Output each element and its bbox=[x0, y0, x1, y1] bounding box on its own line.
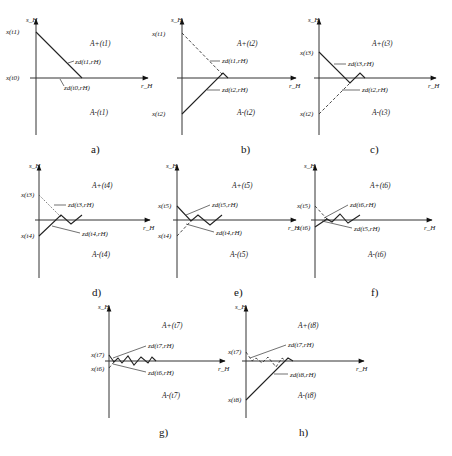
y-tick-label: x(t3) bbox=[20, 191, 35, 199]
panel-caption: b) bbox=[241, 143, 251, 156]
previous-switching-curve bbox=[182, 33, 222, 74]
y-tick-label: x(t6) bbox=[90, 365, 105, 373]
y-tick-label: x(t5) bbox=[296, 202, 311, 210]
y-tick-label: x(t0) bbox=[5, 74, 20, 82]
curve-label: zd(t3,rH) bbox=[347, 60, 375, 68]
y-axis-label: s_H bbox=[98, 303, 110, 311]
panel-caption: g) bbox=[159, 426, 169, 439]
panel-g: s_H r_H x(t7) x(t6) zd(t7,rH) zd(t6,rH) … bbox=[90, 303, 230, 439]
y-axis-label: s_H bbox=[26, 16, 38, 24]
y-tick-label: x(t6) bbox=[296, 224, 311, 232]
y-tick-label: x(t2) bbox=[151, 110, 166, 118]
curve-label: zd(t2,rH) bbox=[361, 86, 389, 94]
panel-d: s_H r_H x(t3) x(t4) zd(t3,rH) zd(t4,rH) … bbox=[20, 162, 155, 299]
panel-caption: d) bbox=[92, 286, 102, 299]
curve-label: zd(t7,rH) bbox=[287, 341, 315, 349]
curve-label: zd(t8,rH) bbox=[289, 371, 317, 379]
y-axis-label: s_H bbox=[29, 162, 41, 170]
curve-label: zd(t2,rH) bbox=[221, 86, 249, 94]
panel-e: s_H r_H x(t5) x(t4) zd(t5,rH) zd(t4,rH) … bbox=[157, 162, 300, 299]
curve-label: zd(t4,rH) bbox=[81, 230, 109, 238]
panel-caption: e) bbox=[234, 286, 243, 299]
region-upper: A+(t3) bbox=[371, 39, 393, 48]
y-tick-label: x(t1) bbox=[5, 28, 20, 36]
x-axis-label: r_H bbox=[289, 82, 301, 90]
leader-line bbox=[250, 345, 286, 358]
region-lower: A-(t7) bbox=[161, 391, 180, 400]
previous-switching-curve bbox=[177, 221, 191, 236]
panel-caption: c) bbox=[370, 143, 379, 156]
x-axis-label: r_H bbox=[356, 365, 368, 373]
x-axis-label: r_H bbox=[141, 82, 153, 90]
region-lower: A-(t4) bbox=[91, 250, 110, 259]
phase-plane-figure: s_H r_H x(t1) x(t0) zd(t1,rH) zd(t0,rH) … bbox=[0, 0, 452, 456]
y-axis-label: s_H bbox=[166, 162, 178, 170]
leader-line bbox=[186, 205, 210, 215]
panel-a: s_H r_H x(t1) x(t0) zd(t1,rH) zd(t0,rH) … bbox=[5, 16, 153, 156]
y-tick-label: x(t7) bbox=[227, 348, 242, 356]
previous-switching-curve bbox=[319, 83, 350, 114]
curve-label: zd(t5,rH) bbox=[353, 225, 381, 233]
leader-line bbox=[68, 61, 74, 63]
region-upper: A+(t6) bbox=[369, 181, 391, 190]
y-tick-label: x(t3) bbox=[299, 49, 314, 57]
region-upper: A+(t5) bbox=[231, 181, 253, 190]
region-upper: A+(t2) bbox=[236, 39, 258, 48]
curve-label: zd(t1,rH) bbox=[221, 57, 249, 65]
y-axis-label: s_H bbox=[235, 303, 247, 311]
panel-f: s_H r_H x(t5) x(t6) zd(t6,rH) zd(t5,rH) … bbox=[296, 162, 436, 299]
region-lower: A-(t3) bbox=[371, 108, 390, 117]
curve-label: zd(t5,rH) bbox=[211, 201, 239, 209]
y-tick-label: x(t8) bbox=[227, 396, 242, 404]
switching-curve bbox=[109, 355, 156, 365]
panel-caption: f) bbox=[371, 286, 379, 299]
leader-line bbox=[324, 205, 348, 218]
switching-curve bbox=[36, 32, 82, 78]
region-lower: A-(t6) bbox=[367, 250, 386, 259]
y-axis-label: s_H bbox=[171, 16, 183, 24]
y-tick-label: x(t5) bbox=[157, 202, 172, 210]
panel-caption: a) bbox=[91, 143, 100, 156]
panel-b: s_H r_H x(t1) x(t2) zd(t1,rH) zd(t2,rH) … bbox=[151, 16, 301, 156]
leader-line bbox=[113, 364, 146, 372]
curve-label: zd(t6,rH) bbox=[349, 201, 377, 209]
curve-label: zd(t1,rH) bbox=[74, 58, 102, 66]
region-upper: A+(t8) bbox=[297, 321, 319, 330]
region-lower: A-(t2) bbox=[236, 108, 255, 117]
region-lower: A-(t5) bbox=[229, 250, 248, 259]
y-tick-label: x(t4) bbox=[157, 232, 172, 240]
x-axis-label: r_H bbox=[424, 224, 436, 232]
leader-line bbox=[52, 226, 80, 233]
curve-label: zd(t3,rH) bbox=[67, 201, 95, 209]
region-upper: A+(t4) bbox=[91, 181, 113, 190]
region-upper: A+(t7) bbox=[161, 321, 183, 330]
curve-label: zd(t4,rH) bbox=[215, 229, 243, 237]
panel-caption: h) bbox=[299, 426, 309, 439]
curve-label: zd(t7,rH) bbox=[147, 342, 175, 350]
switching-curve bbox=[246, 358, 293, 400]
panel-h: s_H r_H x(t7) x(t8) zd(t7,rH) zd(t8,rH) … bbox=[227, 303, 368, 439]
y-tick-label: x(t1) bbox=[151, 30, 166, 38]
y-tick-label: x(t2) bbox=[299, 110, 314, 118]
x-axis-label: r_H bbox=[143, 224, 155, 232]
curve-label: zd(t0,rH) bbox=[63, 84, 91, 92]
y-axis-label: s_H bbox=[304, 162, 316, 170]
curve-label: zd(t6,rH) bbox=[147, 369, 175, 377]
previous-switching-curve bbox=[109, 362, 114, 368]
region-lower: A-(t1) bbox=[89, 108, 108, 117]
region-upper: A+(t1) bbox=[89, 39, 111, 48]
x-axis-label: r_H bbox=[428, 82, 440, 90]
region-lower: A-(t8) bbox=[297, 391, 316, 400]
x-axis-label: r_H bbox=[218, 365, 230, 373]
switching-curve bbox=[39, 215, 82, 236]
panel-c: s_H r_H x(t3) x(t2) zd(t3,rH) zd(t2,rH) … bbox=[299, 16, 440, 156]
previous-switching-curve bbox=[39, 195, 61, 217]
y-tick-label: x(t4) bbox=[20, 232, 35, 240]
y-axis-label: s_H bbox=[308, 16, 320, 24]
previous-switching-curve bbox=[246, 352, 286, 367]
leader-line bbox=[113, 346, 146, 358]
y-tick-label: x(t7) bbox=[90, 351, 105, 359]
